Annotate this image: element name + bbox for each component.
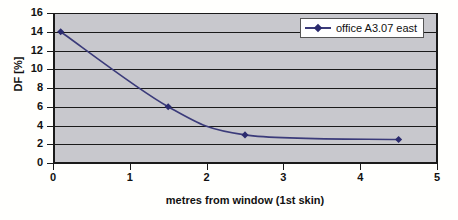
gridline [53,107,437,108]
x-axis-tick [437,164,438,170]
y-axis-tick-label: 4 [3,120,43,131]
y-axis-tick-label: 16 [3,7,43,18]
y-axis-title: DF [%] [12,44,24,104]
plot-right-border [436,13,438,164]
x-axis-tick [130,164,131,170]
x-axis-line [53,162,438,164]
y-axis-tick [47,88,53,89]
legend-entry-label: office A3.07 east [336,23,417,34]
y-axis-tick [47,144,53,145]
y-axis-line [53,13,55,164]
x-axis-tick-label: 4 [345,172,375,183]
y-axis-tick [47,69,53,70]
x-axis-tick-label: 0 [38,172,68,183]
y-axis-tick [47,107,53,108]
y-axis-tick-label: 0 [3,157,43,168]
gridline [53,13,437,14]
y-axis-tick-label: 14 [3,26,43,37]
x-axis-tick-label: 5 [422,172,452,183]
y-axis-tick [47,51,53,52]
chart-figure: 0246810121416012345 DF [%] metres from w… [0,0,458,220]
chart-legend[interactable]: office A3.07 east [300,18,424,38]
x-axis-title: metres from window (1st skin) [53,194,437,206]
gridline [53,69,437,70]
gridline [53,51,437,52]
x-axis-tick [53,164,54,170]
x-axis-tick [207,164,208,170]
x-axis-tick [360,164,361,170]
y-axis-tick-label: 2 [3,138,43,149]
gridline [53,126,437,127]
legend-marker-icon [305,23,331,33]
x-axis-tick-label: 2 [192,172,222,183]
y-axis-tick [47,126,53,127]
y-axis-tick [47,32,53,33]
x-axis-tick [283,164,284,170]
y-axis-tick [47,13,53,14]
gridline [53,144,437,145]
x-axis-tick-label: 3 [268,172,298,183]
x-axis-tick-label: 1 [115,172,145,183]
gridline [53,88,437,89]
